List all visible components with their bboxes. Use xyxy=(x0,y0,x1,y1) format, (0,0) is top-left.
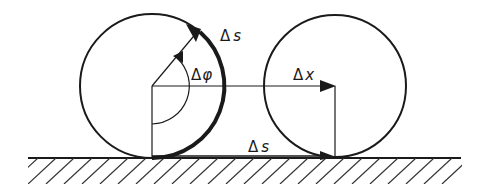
label-displacement: Δx xyxy=(293,66,314,84)
angle-arrowhead-icon xyxy=(173,51,183,63)
label-arc-length-ground: Δs xyxy=(248,138,269,156)
displacement-arrowhead-icon xyxy=(320,80,336,92)
arc-arrowhead-icon xyxy=(186,24,201,42)
ground-hatching xyxy=(10,158,470,184)
ground xyxy=(10,158,470,184)
angle-arc xyxy=(152,58,189,124)
label-angle: Δφ xyxy=(191,66,212,84)
rolling-wheel-diagram: Δs Δφ Δx Δs xyxy=(0,0,481,196)
label-arc-length-top: Δs xyxy=(220,27,241,45)
